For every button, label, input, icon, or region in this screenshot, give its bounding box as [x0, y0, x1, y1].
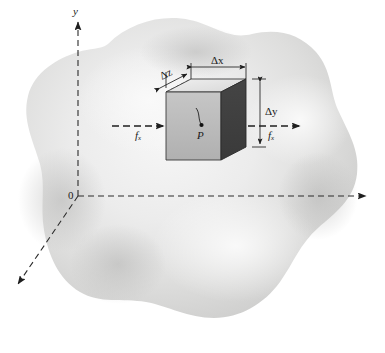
cube-element — [166, 79, 246, 160]
dy-dimension-label: Δy — [265, 106, 278, 117]
force-subscript-right: x — [271, 134, 274, 141]
continuum-body — [18, 18, 358, 318]
figure-canvas: y 0 Δz Δx Δy fx fx P — [0, 0, 385, 353]
force-label-right: fx — [268, 130, 274, 142]
point-p-label: P — [197, 130, 204, 141]
figure-graphics — [0, 0, 385, 353]
dx-dimension-label: Δx — [211, 55, 224, 66]
cube-front-face — [166, 92, 221, 160]
y-axis-label: y — [73, 6, 78, 17]
force-label-left: fx — [135, 130, 141, 142]
origin-label: 0 — [68, 190, 74, 201]
cube-right-face — [221, 79, 246, 160]
force-subscript-left: x — [138, 134, 141, 141]
